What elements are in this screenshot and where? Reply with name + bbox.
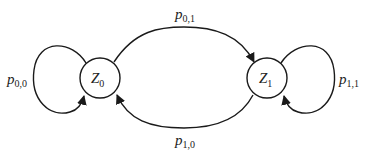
edge-label-p10: p1,0 (174, 132, 195, 150)
node-z1: Z1 (247, 58, 287, 98)
edge-label-p11: p1,1 (338, 71, 359, 89)
edge-label-p00: p0,0 (6, 71, 27, 89)
edge-self-loop-z1 (281, 46, 335, 113)
state-diagram: Z0 Z1 p0,0 p0,1 p1,0 p1,1 (0, 0, 368, 159)
edge-z1-to-z0 (117, 95, 253, 128)
edge-label-p01: p0,1 (174, 6, 195, 24)
edge-z0-to-z1 (114, 27, 254, 62)
node-z0: Z0 (80, 58, 120, 98)
edge-self-loop-z0 (33, 46, 86, 113)
